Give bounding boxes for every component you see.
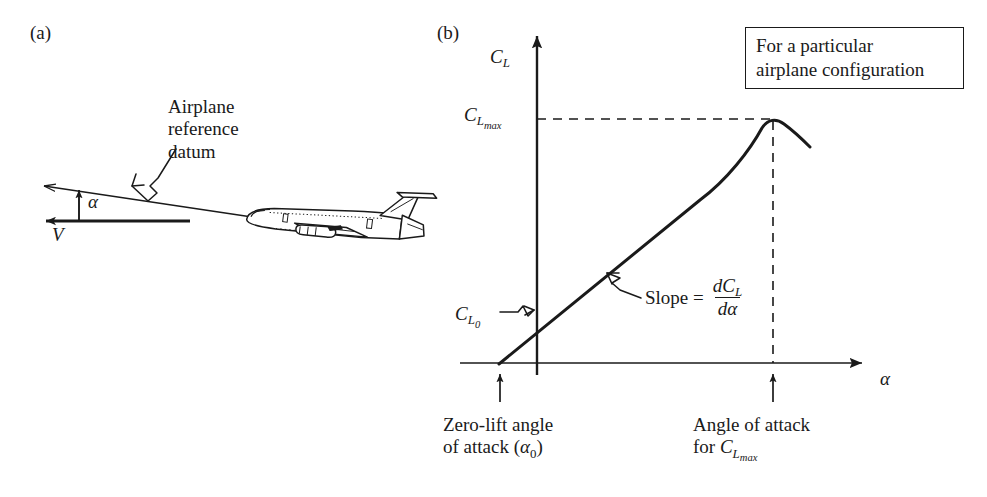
slope-fraction: dCL dα (710, 276, 745, 319)
configuration-note-box: For a particular airplane configuration (745, 27, 964, 89)
zerolift-caption-post: ) (536, 436, 542, 457)
clmax-caption-line1: Angle of attack (693, 414, 810, 436)
cl0-label-sub-l: L (468, 312, 475, 327)
panel-b-chart (460, 36, 862, 402)
slope-denominator-alpha: α (727, 298, 737, 319)
datum-leader-arrowhead (132, 174, 144, 186)
cl0-label: CL0 (455, 303, 480, 325)
lift-curve (499, 120, 810, 364)
cl0-label-sub-zero: 0 (475, 319, 480, 330)
zerolift-caption-alpha: α (520, 436, 530, 457)
clmax-axis-label: CLmax (464, 104, 502, 126)
clmax-caption-sub: Lmax (733, 446, 758, 461)
clmax-caption-c: C (720, 436, 733, 457)
slope-numerator-d: d (713, 275, 723, 296)
clmax-label-sub-l: L (477, 113, 484, 128)
clmax-caption: Angle of attack for CLmax (693, 414, 810, 459)
zerolift-caption-line2: of attack (α0) (443, 436, 553, 458)
reference-datum-line3: datum (168, 141, 239, 163)
alpha-label: α (88, 191, 98, 213)
reference-datum-label: Airplane reference datum (168, 96, 239, 163)
slope-denominator-d: d (718, 298, 728, 319)
velocity-label: V (52, 224, 64, 246)
configuration-note-line2: airplane configuration (756, 58, 963, 82)
airplane-illustration (246, 172, 437, 251)
y-axis-label-c: C (490, 46, 503, 67)
slope-denominator: dα (715, 297, 740, 319)
zerolift-caption: Zero-lift angle of attack (α0) (443, 414, 553, 459)
reference-datum-line2: reference (168, 118, 239, 140)
slope-numerator-sub: L (735, 284, 742, 299)
figure-root: (a) (b) Airplane reference datum α V CL … (0, 0, 987, 497)
clmax-caption-sub-l: L (733, 446, 740, 461)
clmax-label-c: C (464, 104, 477, 125)
zerolift-caption-sub: 0 (530, 446, 536, 461)
clmax-caption-sub-max: max (740, 452, 758, 463)
slope-numerator-c: C (722, 275, 735, 296)
zerolift-caption-line1: Zero-lift angle (443, 414, 553, 436)
panel-b-letter: (b) (437, 22, 459, 44)
clmax-label-sub-max: max (484, 120, 502, 131)
clmax-caption-pre: for (693, 436, 720, 457)
x-axis-label: α (880, 368, 890, 390)
y-axis-label-sub: L (503, 55, 510, 70)
slope-leader-squiggle (607, 273, 641, 298)
slope-text: Slope = (645, 287, 704, 309)
reference-datum-line1: Airplane (168, 96, 239, 118)
cl0-label-c: C (455, 303, 468, 324)
y-axis-label: CL (490, 46, 510, 68)
slope-annotation: Slope = dCL dα (645, 277, 745, 320)
cl0-label-sub: L0 (468, 312, 480, 327)
configuration-note-line1: For a particular (756, 34, 963, 58)
clmax-caption-line2: for CLmax (693, 436, 810, 458)
clmax-label-sub: Lmax (477, 113, 502, 128)
slope-numerator: dCL (710, 276, 745, 297)
zerolift-caption-pre: of attack ( (443, 436, 520, 457)
panel-a-diagram (44, 149, 437, 250)
panel-a-letter: (a) (30, 22, 51, 44)
